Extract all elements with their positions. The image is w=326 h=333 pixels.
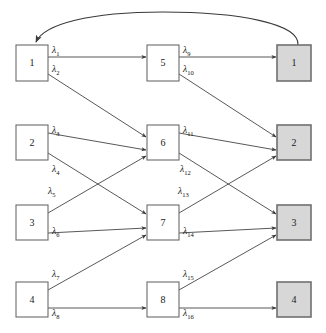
weight-label-e10: λ10 [182,64,194,76]
weight-label-e13: λ13 [177,186,189,198]
weight-label-e1: λ1 [51,45,59,57]
output-layer-node-1[interactable]: 1 [277,45,311,81]
edge-e3 [48,133,146,150]
weight-label-e7: λ7 [51,269,60,281]
edge-e6 [48,228,146,233]
feedback-arrow [36,12,298,45]
input-layer-node-2-label: 2 [30,137,35,148]
output-layer-node-2[interactable]: 2 [277,125,311,160]
weight-label-e5: λ5 [47,186,55,198]
hidden-layer-node-5[interactable]: 5 [147,45,179,81]
weight-label-e14: λ14 [182,226,194,238]
hidden-layer-node-6[interactable]: 6 [147,125,179,160]
feedback-arrow-group [36,12,298,45]
output-layer-node-3-label: 3 [292,217,297,228]
network-diagram: 123456781234 λ1λ2λ3λ4λ5λ6λ7λ8λ9λ10λ11λ12… [0,0,326,333]
hidden-layer-node-8-label: 8 [161,294,166,305]
input-layer-node-3-label: 3 [30,217,35,228]
edge-e7 [48,235,146,290]
weight-label-e15: λ15 [182,269,194,281]
weight-label-e16: λ16 [182,308,194,320]
input-layer-node-3[interactable]: 3 [16,205,48,240]
weight-label-e8: λ8 [51,308,59,320]
output-layer-node-4-label: 4 [292,294,297,305]
hidden-layer-node-7[interactable]: 7 [147,205,179,240]
input-layer-node-1-label: 1 [30,57,35,68]
output-layer-node-2-label: 2 [292,137,297,148]
edge-e11 [179,133,276,150]
nodes-group: 123456781234 [16,45,311,317]
output-layer-node-1-label: 1 [292,57,297,68]
output-layer-node-4[interactable]: 4 [277,282,311,317]
weight-label-e6: λ6 [51,226,60,238]
output-layer-node-3[interactable]: 3 [277,205,311,240]
weight-label-e4: λ4 [51,164,60,176]
edge-e15 [179,235,276,290]
weight-label-e11: λ11 [182,125,193,137]
weight-label-e3: λ3 [51,125,59,137]
hidden-layer-node-6-label: 6 [161,137,166,148]
weight-label-e2: λ2 [51,64,59,76]
edge-e10 [179,74,276,137]
input-layer-node-1[interactable]: 1 [16,45,48,81]
edge-e2 [48,74,146,137]
weight-label-e9: λ9 [182,45,190,57]
input-layer-node-2[interactable]: 2 [16,125,48,160]
hidden-layer-node-5-label: 5 [161,57,166,68]
weight-label-e12: λ12 [179,164,191,176]
edges-group [48,57,276,308]
hidden-layer-node-8[interactable]: 8 [147,282,179,317]
network-diagram-canvas: 123456781234 λ1λ2λ3λ4λ5λ6λ7λ8λ9λ10λ11λ12… [0,0,326,333]
hidden-layer-node-7-label: 7 [161,217,166,228]
input-layer-node-4-label: 4 [30,294,35,305]
input-layer-node-4[interactable]: 4 [16,282,48,317]
